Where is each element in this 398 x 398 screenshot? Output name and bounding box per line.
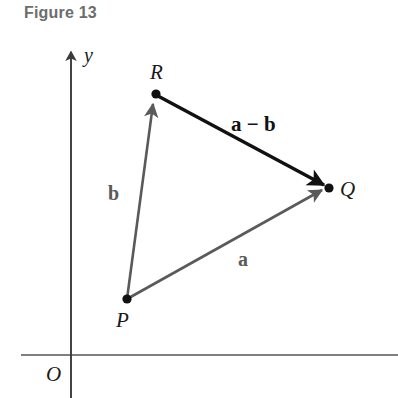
origin-label: O [46,362,61,386]
figure-container: Figure 13 y O [0,0,398,398]
vector-a-label: a [238,248,248,270]
vector-diagram: y O P Q R a b a − b [0,0,398,398]
vector-b-label: b [108,182,119,204]
y-axis-label: y [82,44,93,67]
vector-a-minus-b-line [158,96,324,185]
point-P-dot [122,294,131,303]
point-Q-label: Q [340,177,355,201]
vector-a-minus-b-label: a − b [231,112,276,136]
point-Q-dot [324,183,333,192]
vector-a-line [127,190,322,299]
point-R-label: R [149,60,163,84]
point-P-label: P [115,308,129,332]
point-R-dot [151,89,160,98]
vector-b-line [127,104,153,299]
